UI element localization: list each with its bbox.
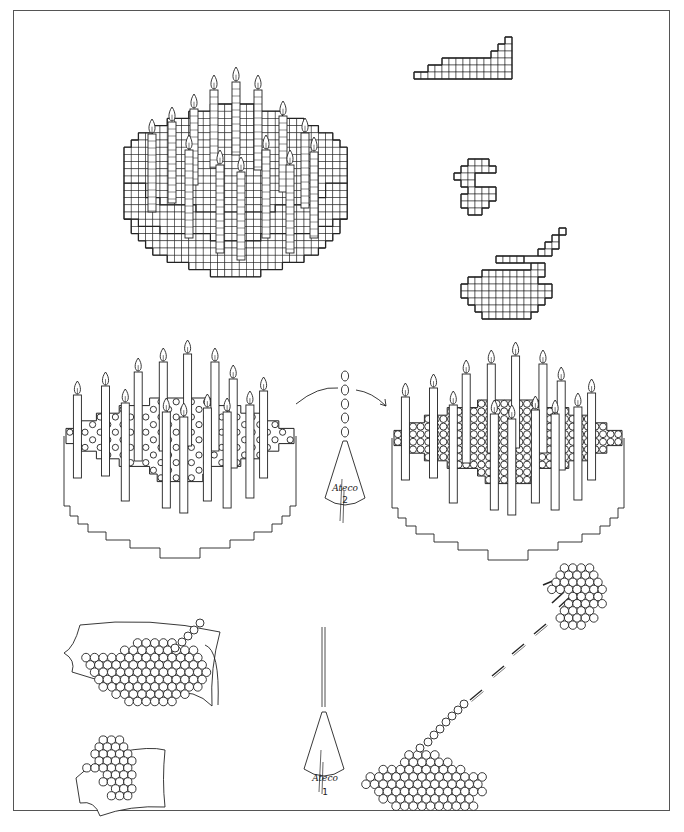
illustration-canvas: Ateco 2 Ateco 1 [0, 0, 684, 832]
transfer-drawing [362, 564, 607, 811]
piping-tube-1-icon [304, 627, 344, 794]
dotted-cake-dense [392, 342, 624, 560]
tube-2-number-label: 2 [342, 495, 348, 505]
tube-1-number-label: 1 [322, 787, 328, 797]
fabric-pieces-drawing [64, 619, 220, 816]
grid-shapes-drawing [414, 37, 566, 319]
dotted-cake-sparse [64, 340, 386, 558]
tube-2-brand-label: Ateco [331, 483, 358, 493]
grid-cake-drawing [124, 67, 347, 277]
tube-1-brand-label: Ateco [311, 773, 338, 783]
